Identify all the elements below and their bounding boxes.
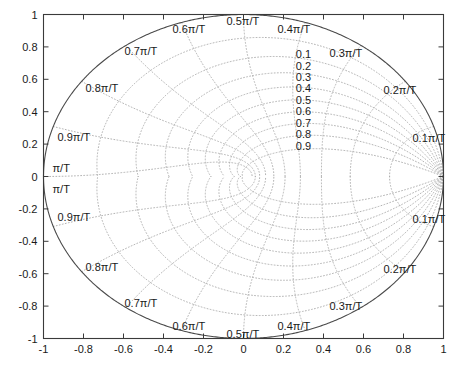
damping-ratio-label: 0.4 xyxy=(296,82,311,94)
x-tick-label: 0.4 xyxy=(316,343,331,355)
frequency-label: 0.4π/T xyxy=(278,23,311,35)
x-tick-label: -0.4 xyxy=(154,343,173,355)
frequency-label: 0.2π/T xyxy=(384,84,417,96)
y-tick-label: 0.2 xyxy=(22,138,37,150)
damping-ratio-label: 0.6 xyxy=(296,105,311,117)
y-tick-label: -0.6 xyxy=(19,268,38,280)
frequency-label: 0.6π/T xyxy=(173,320,206,332)
y-tick-label: 0.8 xyxy=(22,41,37,53)
frequency-label: 0.4π/T xyxy=(278,320,311,332)
frequency-label: π/T xyxy=(53,162,71,174)
damping-ratio-label: 0.5 xyxy=(296,94,311,106)
frequency-label: 0.9π/T xyxy=(58,131,91,143)
y-tick-label: -1 xyxy=(28,333,38,345)
x-tick-label: -1 xyxy=(39,343,49,355)
y-tick-label: 0.4 xyxy=(22,106,37,118)
frequency-label: 0.3π/T xyxy=(330,47,363,59)
y-tick-label: 0 xyxy=(31,171,37,183)
frequency-label: 0.3π/T xyxy=(330,300,363,312)
y-tick-label: -0.8 xyxy=(19,300,38,312)
frequency-label: 0.7π/T xyxy=(125,297,158,309)
damping-ratio-label: 0.7 xyxy=(296,117,311,129)
y-tick-label: -0.2 xyxy=(19,203,38,215)
damping-ratio-label: 0.8 xyxy=(296,128,311,140)
x-tick-label: -0.6 xyxy=(114,343,133,355)
frequency-label: 0.9π/T xyxy=(58,211,91,223)
x-tick-label: -0.2 xyxy=(194,343,213,355)
frequency-label: π/T xyxy=(53,183,71,195)
x-tick-label: -0.8 xyxy=(74,343,93,355)
damping-ratio-label: 0.2 xyxy=(296,60,311,72)
frequency-label: 0.1π/T xyxy=(413,132,446,144)
damping-ratio-label: 0.9 xyxy=(296,140,311,152)
y-tick-label: 1 xyxy=(31,9,37,21)
frequency-label: 0.8π/T xyxy=(86,82,119,94)
zgrid-plot: -1-0.8-0.6-0.4-0.200.20.40.60.81 -1-0.8-… xyxy=(0,0,462,379)
frequency-label: 0.8π/T xyxy=(86,261,119,273)
damping-ratio-labels: 0.10.20.30.40.50.60.70.80.9 xyxy=(296,48,311,151)
damping-ratio-label: 0.3 xyxy=(296,71,311,83)
frequency-label: 0.1π/T xyxy=(413,213,446,225)
x-tick-label: 0.8 xyxy=(396,343,411,355)
x-tick-label: 0 xyxy=(240,343,246,355)
x-tick-label: 0.2 xyxy=(276,343,291,355)
frequency-label: 0.2π/T xyxy=(384,263,417,275)
frequency-label: 0.5π/T xyxy=(227,15,260,27)
frequency-label: 0.7π/T xyxy=(125,45,158,57)
damping-ratio-label: 0.1 xyxy=(296,48,311,60)
frequency-label: 0.6π/T xyxy=(173,23,206,35)
y-tick-label: -0.4 xyxy=(19,235,38,247)
y-tick-label: 0.6 xyxy=(22,73,37,85)
frequency-label: 0.5π/T xyxy=(227,328,260,340)
x-tick-label: 0.6 xyxy=(356,343,371,355)
figure-canvas: -1-0.8-0.6-0.4-0.200.20.40.60.81 -1-0.8-… xyxy=(0,0,462,379)
x-tick-label: 1 xyxy=(440,343,446,355)
